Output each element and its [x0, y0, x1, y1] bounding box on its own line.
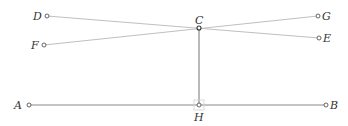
point-E: [317, 36, 321, 40]
point-A: [27, 103, 31, 107]
diagram-svg: D F C G E A B H: [0, 0, 348, 126]
segment-DE: [47, 16, 319, 38]
point-B: [324, 103, 328, 107]
label-C: C: [195, 14, 204, 27]
point-F: [42, 43, 46, 47]
label-B: B: [329, 99, 338, 112]
label-G: G: [322, 10, 331, 23]
point-G: [316, 14, 320, 18]
point-D: [45, 14, 49, 18]
label-A: A: [13, 99, 22, 112]
label-F: F: [30, 39, 39, 52]
label-D: D: [32, 10, 42, 23]
geometry-diagram: D F C G E A B H: [0, 0, 348, 126]
label-H: H: [193, 111, 204, 124]
label-E: E: [322, 32, 331, 45]
point-H: [197, 103, 201, 107]
segment-FG: [44, 16, 318, 45]
